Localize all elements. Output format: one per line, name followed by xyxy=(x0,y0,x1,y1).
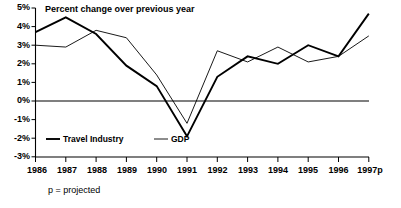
line-chart: Percent change over previous year 5% 4% … xyxy=(0,0,401,208)
x-tick-label: 1987 xyxy=(57,165,77,175)
x-tick-label: 1991 xyxy=(177,165,197,175)
chart-title: Percent change over previous year xyxy=(45,4,195,14)
x-tick-label: 1997p xyxy=(357,165,383,175)
x-tick-label: 1989 xyxy=(117,165,137,175)
y-tick-label: -1% xyxy=(14,114,30,124)
chart-container: Percent change over previous year 5% 4% … xyxy=(0,0,401,208)
y-tick-label: 3% xyxy=(17,40,30,50)
legend-label-gdp: GDP xyxy=(171,134,190,144)
y-tick-label: -2% xyxy=(14,133,30,143)
y-axis-labels: 5% 4% 3% 2% 1% 0% -1% -2% -3% xyxy=(14,2,30,161)
x-tick-label: 1996 xyxy=(328,165,348,175)
y-tick-label: 4% xyxy=(17,21,30,31)
x-tick-label: 1990 xyxy=(147,165,167,175)
y-tick-label: 0% xyxy=(17,95,30,105)
series-line-gdp xyxy=(36,30,369,123)
legend-label-travel-industry: Travel Industry xyxy=(63,134,124,144)
x-tick-label: 1992 xyxy=(207,165,227,175)
footnote-projected: p = projected xyxy=(48,185,100,195)
y-tick-label: -3% xyxy=(14,151,30,161)
chart-legend: Travel Industry GDP xyxy=(46,134,190,144)
x-tick-label: 1988 xyxy=(87,165,107,175)
x-axis-ticks xyxy=(36,157,369,162)
x-tick-label: 1995 xyxy=(298,165,318,175)
x-tick-label: 1986 xyxy=(27,165,47,175)
y-tick-label: 5% xyxy=(17,2,30,12)
x-tick-label: 1993 xyxy=(238,165,258,175)
y-axis-ticks xyxy=(32,8,36,157)
series-line-travel-industry xyxy=(36,14,369,137)
x-tick-label: 1994 xyxy=(268,165,288,175)
y-tick-label: 2% xyxy=(17,58,30,68)
y-tick-label: 1% xyxy=(17,77,30,87)
x-axis-labels: 1986 1987 1988 1989 1990 1991 1992 1993 … xyxy=(27,165,383,175)
